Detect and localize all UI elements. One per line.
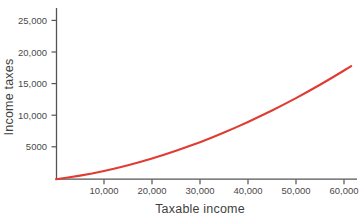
x-tick-label-40000: 40,000 [233, 185, 262, 196]
chart-figure: 25,000 20,000 15,000 10,000 5000 10,000 … [0, 0, 363, 218]
y-tick-label-15000: 15,000 [18, 78, 47, 89]
x-axis-title: Taxable income [155, 202, 245, 216]
y-axis-title: Income taxes [2, 59, 16, 136]
y-tick-label-10000: 10,000 [18, 110, 47, 121]
x-tick-label-60000: 60,000 [329, 185, 358, 196]
y-tick-label-20000: 20,000 [18, 47, 47, 58]
chart-canvas: 25,000 20,000 15,000 10,000 5000 10,000 … [0, 0, 363, 218]
y-tick-label-5000: 5000 [26, 141, 47, 152]
x-tick-label-30000: 30,000 [185, 185, 214, 196]
y-tick-label-25000: 25,000 [18, 15, 47, 26]
x-tick-label-50000: 50,000 [281, 185, 310, 196]
x-tick-label-20000: 20,000 [137, 185, 166, 196]
x-tick-label-10000: 10,000 [89, 185, 118, 196]
